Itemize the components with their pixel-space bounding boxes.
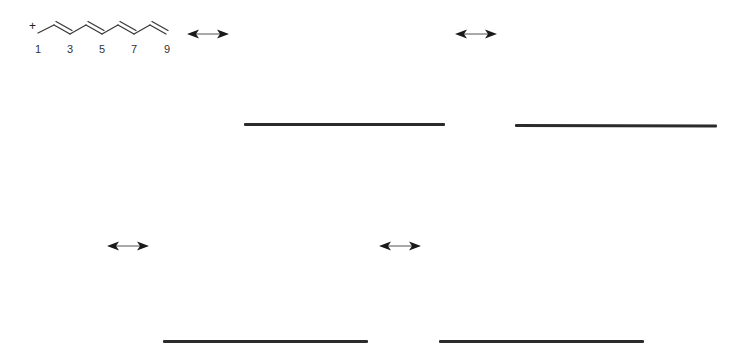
resonance-arrow-4 xyxy=(379,238,421,250)
positive-charge: + xyxy=(29,20,36,32)
answer-blank-2 xyxy=(515,124,717,128)
resonance-arrow-2 xyxy=(455,26,497,38)
carbon-label-5: 5 xyxy=(99,44,105,55)
answer-blank-3 xyxy=(163,340,368,343)
answer-blank-1 xyxy=(244,123,445,126)
resonance-arrow-3 xyxy=(107,238,149,250)
carbon-label-1: 1 xyxy=(35,44,41,55)
double-headed-arrow-icon xyxy=(455,28,497,40)
double-headed-arrow-icon xyxy=(187,28,229,40)
double-headed-arrow-icon xyxy=(379,240,421,252)
starting-structure: + 1 3 5 7 9 xyxy=(0,0,200,70)
carbon-label-7: 7 xyxy=(131,44,137,55)
skeletal-formula-icon xyxy=(0,0,200,70)
double-headed-arrow-icon xyxy=(107,240,149,252)
resonance-arrow-1 xyxy=(187,26,229,38)
carbon-label-3: 3 xyxy=(67,44,73,55)
answer-blank-4 xyxy=(439,340,644,343)
carbon-label-9: 9 xyxy=(164,44,170,55)
